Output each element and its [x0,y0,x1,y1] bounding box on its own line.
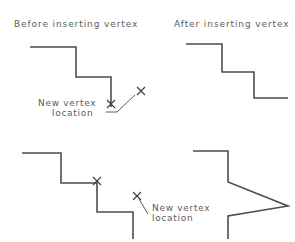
top-left-note-line2: location [52,108,93,118]
bottom-right-note-line2: location [152,213,193,223]
top-right-caption: After inserting vertex [174,19,290,29]
top-left-caption: Before inserting vertex [14,19,138,29]
vertex-insertion-figure: Before inserting vertex New vertex locat… [0,0,295,242]
bottom-right-note-line1: New vertex [152,203,210,213]
panel-top-right: After inserting vertex [174,19,290,98]
bottom-right-polyline [193,151,288,239]
figure-canvas: Before inserting vertex New vertex locat… [0,0,295,242]
panel-bottom-right: New vertex location [133,151,288,239]
bottom-right-new-vertex-x-icon [133,192,141,200]
top-left-note-line1: New vertex [38,98,96,108]
top-right-polyline [186,44,288,98]
bottom-right-leader-line [139,199,148,214]
panel-top-left: Before inserting vertex New vertex locat… [14,19,145,118]
top-left-new-vertex-x-icon [137,87,145,95]
panel-bottom-left [22,153,133,239]
bottom-left-polyline [22,153,133,239]
